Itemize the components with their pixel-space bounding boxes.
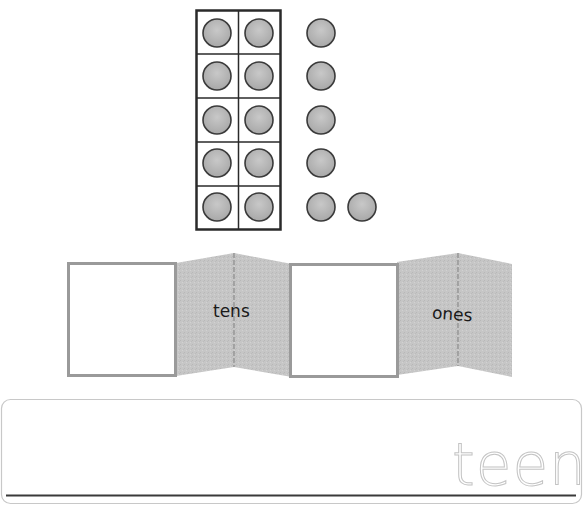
counter-dot: [245, 193, 273, 221]
counter-dot: [203, 62, 231, 90]
tens-answer-box[interactable]: [69, 264, 176, 376]
counter-dot: [307, 106, 335, 134]
counter-dot: [203, 193, 231, 221]
counter-dot: [307, 193, 335, 221]
extra-counters: [307, 19, 376, 221]
trace-word: teen: [452, 436, 587, 494]
counter-dot: [307, 19, 335, 47]
counter-dot: [203, 149, 231, 177]
counter-dot: [307, 62, 335, 90]
counter-dot: [245, 149, 273, 177]
counter-dot: [245, 62, 273, 90]
counter-dot: [307, 149, 335, 177]
ones-label: ones: [431, 303, 473, 326]
counter-dot: [203, 106, 231, 134]
counter-dot: [203, 19, 231, 47]
counter-dot: [245, 106, 273, 134]
counter-dot: [245, 19, 273, 47]
counter-dot: [348, 193, 376, 221]
tens-label: tens: [213, 301, 250, 321]
ones-answer-box[interactable]: [291, 265, 398, 377]
